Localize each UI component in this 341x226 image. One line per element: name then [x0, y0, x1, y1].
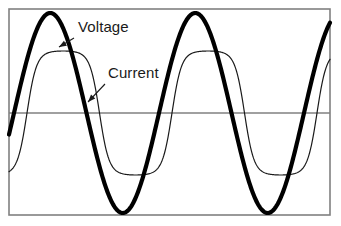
voltage-label: Voltage: [78, 18, 129, 35]
waveform-canvas: Voltage Current: [0, 0, 341, 226]
waveform-figure: Voltage Current: [0, 0, 341, 226]
current-label: Current: [108, 64, 159, 81]
